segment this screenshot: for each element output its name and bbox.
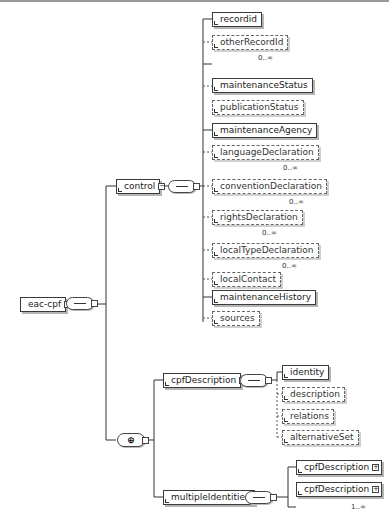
element-label: languageDeclaration — [220, 147, 314, 157]
type-corner-icon — [118, 188, 122, 192]
element-label: localTypeDeclaration — [220, 245, 314, 255]
element-label: relations — [290, 411, 329, 421]
type-corner-icon — [284, 396, 288, 400]
element-rightsDeclaration[interactable]: rightsDeclaration — [212, 210, 303, 225]
type-corner-icon — [214, 188, 218, 192]
compositor-toggle-icon[interactable] — [270, 494, 277, 501]
compositor-toggle-icon[interactable] — [193, 183, 200, 190]
cardinality-label: 1..∞ — [351, 503, 366, 511]
element-label: multipleIdentities — [171, 492, 250, 502]
element-label: maintenanceAgency — [220, 125, 312, 135]
sequence-compositor — [240, 374, 268, 387]
choice-icon: ⊕ — [127, 435, 135, 445]
element-label: identity — [290, 367, 324, 377]
element-maintenanceAgency[interactable]: maintenanceAgency — [212, 123, 317, 138]
expand-toggle-icon[interactable]: + — [372, 464, 379, 471]
sequence-icon — [248, 380, 260, 381]
element-recordid[interactable]: recordid — [212, 12, 262, 27]
element-label: conventionDeclaration — [220, 181, 322, 191]
collapse-toggle-icon[interactable]: − — [158, 183, 165, 190]
element-label: cpfDescription — [171, 375, 236, 385]
type-corner-icon — [165, 499, 169, 503]
type-corner-icon — [214, 320, 218, 324]
element-label: cpfDescription — [304, 484, 369, 494]
type-corner-icon — [284, 374, 288, 378]
type-corner-icon — [298, 469, 302, 473]
element-label: maintenanceHistory — [220, 292, 311, 302]
cardinality-label: 0..∞ — [258, 54, 273, 62]
sequence-icon — [253, 497, 265, 498]
sequence-compositor — [168, 180, 196, 193]
compositor-toggle-icon[interactable] — [91, 300, 98, 307]
cardinality-label: 0..∞ — [289, 198, 304, 206]
compositor-toggle-icon[interactable] — [265, 377, 272, 384]
element-localContact[interactable]: localContact — [212, 272, 281, 287]
element-label: publicationStatus — [220, 102, 299, 112]
type-corner-icon — [214, 252, 218, 256]
element-label: alternativeSet — [290, 432, 354, 442]
type-corner-icon — [214, 281, 218, 285]
expand-toggle-icon[interactable]: + — [372, 486, 379, 493]
element-label: localContact — [220, 274, 276, 284]
cardinality-label: 0..∞ — [262, 229, 277, 237]
element-control[interactable]: control − — [116, 179, 160, 194]
type-corner-icon — [284, 418, 288, 422]
element-maintenanceHistory[interactable]: maintenanceHistory — [212, 290, 316, 305]
type-corner-icon — [298, 491, 302, 495]
cardinality-label: 0..∞ — [283, 164, 298, 172]
element-cpfDescription-ref[interactable]: cpfDescription + — [296, 460, 382, 475]
type-corner-icon — [214, 44, 218, 48]
type-corner-icon — [214, 132, 218, 136]
element-label: description — [290, 389, 340, 399]
element-multipleIdentities[interactable]: multipleIdentities − — [163, 490, 255, 505]
element-label: recordid — [220, 14, 257, 24]
cardinality-label: 0..∞ — [282, 262, 297, 270]
element-label: maintenanceStatus — [220, 80, 308, 90]
element-relations[interactable]: relations — [282, 409, 334, 424]
element-label: sources — [220, 313, 255, 323]
element-cpfDescription[interactable]: cpfDescription − — [163, 373, 241, 388]
element-languageDeclaration[interactable]: languageDeclaration — [212, 145, 319, 160]
type-corner-icon — [214, 109, 218, 113]
type-corner-icon — [214, 219, 218, 223]
element-otherRecordId[interactable]: otherRecordId — [212, 35, 288, 50]
element-conventionDeclaration[interactable]: conventionDeclaration — [212, 179, 327, 194]
type-corner-icon — [165, 382, 169, 386]
sequence-compositor — [66, 297, 94, 310]
type-corner-icon — [284, 439, 288, 443]
type-corner-icon — [214, 21, 218, 25]
choice-compositor: ⊕ — [117, 433, 145, 447]
compositor-toggle-icon[interactable] — [142, 437, 149, 444]
element-eac-cpf[interactable]: eac-cpf − — [20, 297, 66, 312]
element-cpfDescription-ref[interactable]: cpfDescription + — [296, 482, 382, 497]
element-description[interactable]: description — [282, 387, 345, 402]
element-label: otherRecordId — [220, 37, 283, 47]
type-corner-icon — [214, 299, 218, 303]
element-label: eac-cpf — [28, 299, 61, 309]
sequence-icon — [74, 303, 86, 304]
element-alternativeSet[interactable]: alternativeSet — [282, 430, 359, 445]
element-maintenanceStatus[interactable]: maintenanceStatus — [212, 78, 313, 93]
sequence-compositor — [245, 491, 273, 504]
type-corner-icon — [214, 154, 218, 158]
element-label: control — [124, 181, 155, 191]
element-label: rightsDeclaration — [220, 212, 298, 222]
sequence-icon — [176, 186, 188, 187]
element-localTypeDeclaration[interactable]: localTypeDeclaration — [212, 243, 319, 258]
element-label: cpfDescription — [304, 462, 369, 472]
element-publicationStatus[interactable]: publicationStatus — [212, 100, 304, 115]
type-corner-icon — [214, 87, 218, 91]
element-sources[interactable]: sources — [212, 311, 260, 326]
element-identity[interactable]: identity — [282, 365, 329, 380]
